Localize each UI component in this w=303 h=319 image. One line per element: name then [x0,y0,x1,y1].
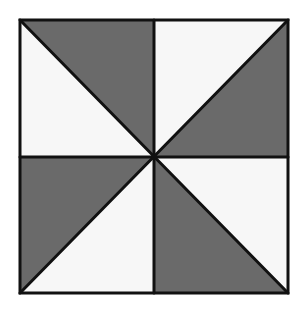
pinwheel-diagram [0,0,303,319]
center-point [151,154,157,160]
